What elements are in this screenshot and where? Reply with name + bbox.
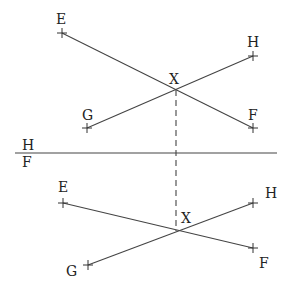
top-view: EFGHX [56, 11, 259, 133]
point-label-g: G [66, 263, 77, 279]
point-label-x: X [181, 210, 191, 226]
front-view: EFGHX [58, 179, 277, 279]
point-label-h: H [265, 185, 277, 201]
point-label-e: E [58, 179, 68, 195]
ground-line-group: HF [15, 137, 277, 170]
point-label-g: G [82, 107, 93, 123]
line-ef [63, 203, 253, 248]
point-label-f: F [248, 107, 258, 123]
reference-label-f: F [22, 154, 32, 170]
point-label-e: E [56, 11, 66, 27]
point-label-f: F [259, 255, 269, 271]
reference-label-h: H [22, 137, 34, 153]
point-label-h: H [247, 34, 259, 50]
projection-diagram: HF EFGHX EFGHX [0, 0, 290, 307]
point-label-x: X [169, 71, 179, 87]
line-gh [88, 203, 253, 265]
line-gh [87, 56, 253, 128]
